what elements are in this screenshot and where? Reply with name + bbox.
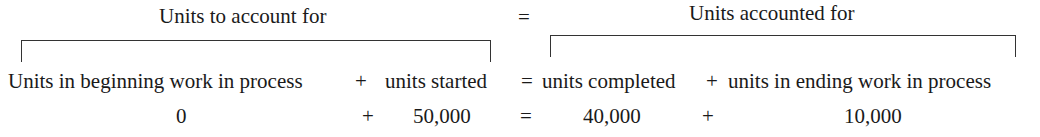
term-units-completed: units completed [542, 71, 676, 92]
term-ending-wip: units in ending work in process [728, 71, 991, 92]
term-equals-sign: = [521, 71, 533, 92]
units-accounted-for-label: Units accounted for [689, 3, 855, 24]
value-units-started: 50,000 [413, 106, 471, 127]
units-to-account-for-label: Units to account for [159, 6, 326, 27]
value-beginning-wip: 0 [176, 106, 187, 127]
value-units-completed: 40,000 [583, 106, 641, 127]
left-grouping-bracket [21, 40, 491, 62]
term-beginning-wip: Units in beginning work in process [8, 71, 303, 92]
right-grouping-bracket [550, 35, 1016, 57]
value-plus-sign-1: + [362, 106, 374, 127]
header-equals-sign: = [518, 7, 530, 28]
value-plus-sign-2: + [702, 106, 714, 127]
term-plus-sign-1: + [355, 71, 367, 92]
value-equals-sign: = [520, 106, 532, 127]
term-plus-sign-2: + [706, 71, 718, 92]
term-units-started: units started [385, 71, 487, 92]
value-ending-wip: 10,000 [844, 106, 902, 127]
